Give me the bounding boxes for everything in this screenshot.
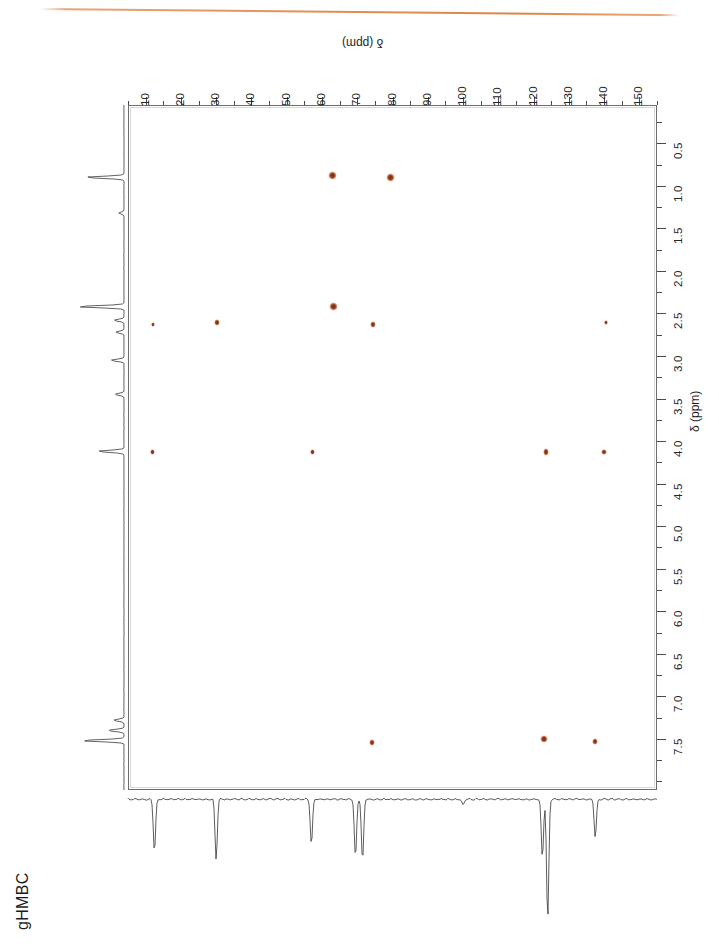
proton-axis-minor-tick bbox=[657, 675, 662, 676]
proton-axis-major-tick bbox=[657, 143, 666, 144]
proton-axis-tick-label: 6.5 bbox=[672, 653, 684, 670]
proton-axis-minor-tick bbox=[657, 335, 662, 336]
proton-axis-major-tick bbox=[657, 399, 666, 400]
proton-axis-tick-label: 4.0 bbox=[672, 441, 684, 458]
cross-peak[interactable] bbox=[329, 302, 338, 311]
proton-axis-major-tick bbox=[657, 569, 666, 570]
proton-axis-minor-tick bbox=[657, 122, 662, 123]
proton-axis bbox=[657, 105, 667, 790]
proton-axis-tick-label: 6.0 bbox=[672, 611, 684, 628]
proton-axis-major-tick bbox=[657, 356, 666, 357]
proton-axis-tick-label: 1.5 bbox=[672, 228, 684, 245]
cross-peak[interactable] bbox=[369, 739, 375, 746]
carbon-axis-tick-label: 90 bbox=[421, 93, 433, 106]
cross-peak[interactable] bbox=[310, 449, 316, 456]
carbon-axis-tick-label: 150 bbox=[632, 86, 644, 106]
carbon-axis-tick-label: 30 bbox=[209, 93, 221, 106]
proton-axis-tick-label: 3.0 bbox=[672, 355, 684, 372]
proton-axis-tick-label: 7.5 bbox=[672, 738, 684, 755]
proton-axis-minor-tick bbox=[657, 505, 662, 506]
proton-axis-major-tick bbox=[657, 696, 666, 697]
carbon-axis-tick-label: 110 bbox=[491, 87, 503, 106]
experiment-label: gHMBC bbox=[14, 872, 32, 930]
proton-axis-tick-label: 0.5 bbox=[672, 143, 684, 160]
cross-peak[interactable] bbox=[150, 449, 155, 455]
cross-peak[interactable] bbox=[370, 321, 376, 329]
page-header-rule bbox=[40, 8, 680, 16]
proton-axis-tick-label: 5.0 bbox=[672, 526, 684, 543]
spectrum-plot-area[interactable] bbox=[128, 105, 657, 790]
proton-projection-trace bbox=[78, 105, 128, 790]
cross-peak[interactable] bbox=[592, 738, 598, 746]
carbon-axis-tick-label: 130 bbox=[562, 86, 574, 106]
proton-axis-minor-tick bbox=[657, 377, 662, 378]
proton-axis-minor-tick bbox=[657, 718, 662, 719]
cross-peak[interactable] bbox=[543, 448, 550, 456]
proton-axis-major-tick bbox=[657, 739, 666, 740]
carbon-projection-trace bbox=[128, 792, 657, 942]
proton-axis-minor-tick bbox=[657, 462, 662, 463]
carbon-axis-title: δ (ppm) bbox=[342, 36, 383, 50]
cross-peak[interactable] bbox=[151, 322, 155, 327]
cross-peak[interactable] bbox=[328, 171, 337, 180]
proton-axis-major-tick bbox=[657, 484, 666, 485]
carbon-1d-projection bbox=[128, 792, 657, 942]
proton-axis-minor-tick bbox=[657, 547, 662, 548]
cross-peak[interactable] bbox=[386, 173, 395, 182]
cross-peak[interactable] bbox=[214, 319, 220, 326]
cross-peak[interactable] bbox=[604, 320, 609, 326]
carbon-axis-tick-label: 60 bbox=[315, 93, 327, 106]
proton-1d-projection bbox=[78, 105, 128, 790]
proton-axis-minor-tick bbox=[657, 633, 662, 634]
proton-axis-title: δ (ppm) bbox=[688, 391, 702, 432]
carbon-axis-tick-label: 80 bbox=[386, 93, 398, 106]
proton-axis-minor-tick bbox=[657, 292, 662, 293]
proton-axis-major-tick bbox=[657, 526, 666, 527]
proton-axis-minor-tick bbox=[657, 250, 662, 251]
proton-axis-major-tick bbox=[657, 313, 666, 314]
proton-axis-major-tick bbox=[657, 611, 666, 612]
proton-axis-tick-label: 2.0 bbox=[672, 270, 684, 287]
proton-axis-major-tick bbox=[657, 271, 666, 272]
carbon-axis-tick-label: 120 bbox=[527, 86, 539, 106]
proton-axis-minor-tick bbox=[657, 165, 662, 166]
carbon-axis-tick-label: 100 bbox=[456, 86, 468, 106]
proton-axis-minor-tick bbox=[657, 420, 662, 421]
proton-axis-minor-tick bbox=[657, 590, 662, 591]
carbon-axis-tick-label: 20 bbox=[174, 93, 186, 106]
proton-axis-tick-label: 3.5 bbox=[672, 398, 684, 415]
carbon-axis-tick-label: 50 bbox=[280, 93, 292, 106]
proton-axis-tick-label: 1.0 bbox=[672, 185, 684, 202]
carbon-axis-tick-label: 140 bbox=[597, 86, 609, 106]
proton-axis-major-tick bbox=[657, 654, 666, 655]
proton-axis-tick-label: 5.5 bbox=[672, 568, 684, 585]
cross-peak[interactable] bbox=[601, 449, 607, 456]
proton-axis-tick-label: 4.5 bbox=[672, 483, 684, 500]
proton-axis-tick-label: 7.0 bbox=[672, 696, 684, 713]
proton-axis-minor-tick bbox=[657, 781, 662, 782]
proton-axis-tick-label: 2.5 bbox=[672, 313, 684, 330]
proton-axis-major-tick bbox=[657, 186, 666, 187]
carbon-axis-tick-label: 70 bbox=[350, 93, 362, 106]
proton-axis-major-tick bbox=[657, 228, 666, 229]
carbon-axis-tick-label: 10 bbox=[139, 93, 151, 106]
carbon-axis-tick-label: 40 bbox=[244, 93, 256, 106]
proton-axis-minor-tick bbox=[657, 207, 662, 208]
cross-peak[interactable] bbox=[540, 735, 548, 743]
proton-axis-minor-tick bbox=[657, 760, 662, 761]
proton-axis-major-tick bbox=[657, 441, 666, 442]
